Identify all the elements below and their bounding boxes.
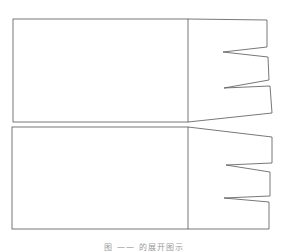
top-pattern-notched-flap xyxy=(188,19,272,122)
bottom-pattern-body-rect xyxy=(12,127,188,229)
bottom-pattern-notched-flap xyxy=(188,127,272,229)
bottom-pattern xyxy=(12,127,272,229)
top-pattern-body-rect xyxy=(13,19,188,122)
top-pattern xyxy=(13,19,272,122)
pattern-panels xyxy=(12,19,272,229)
figure-caption: 图 —— 的展开图示 xyxy=(0,241,288,252)
